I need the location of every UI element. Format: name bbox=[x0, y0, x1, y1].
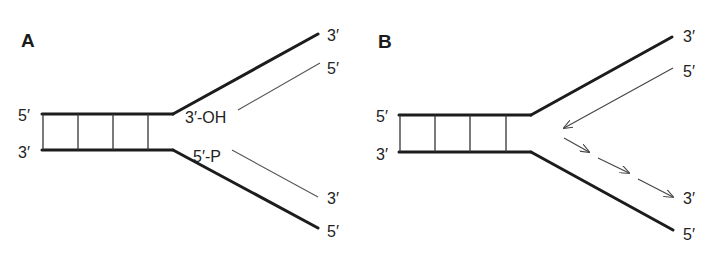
panel-a-upper-parental-end-label: 3′ bbox=[327, 27, 339, 44]
panel-b-lagging-strand-fragments bbox=[564, 138, 673, 197]
okazaki-fragment-arrow bbox=[598, 158, 629, 173]
okazaki-fragment-arrow bbox=[638, 179, 673, 197]
panel-a-label: A bbox=[21, 30, 35, 51]
panel-b-leading-strand-arrow bbox=[564, 68, 673, 128]
panel-a-lower-parental-end-label: 5′ bbox=[327, 223, 339, 240]
panel-b-left-top-label: 5′ bbox=[376, 108, 388, 125]
panel-b-upper-parental-strand bbox=[531, 37, 672, 115]
panel-b-upper-daughter-end-label: 5′ bbox=[683, 63, 695, 80]
panel-a-duplex bbox=[42, 114, 173, 150]
panel-b-label: B bbox=[378, 31, 392, 52]
panel-a-upper-daughter-end-label: 5′ bbox=[327, 60, 339, 77]
okazaki-fragment-arrow bbox=[564, 138, 589, 152]
panel-b: B 5′ 3′ 3′ 5′ 3′ 5′ bbox=[376, 28, 695, 243]
panel-a-3oh-label: 3′-OH bbox=[185, 109, 226, 126]
panel-b-duplex bbox=[399, 115, 531, 152]
panel-a: A 5′ 3′ 3′-OH 5′-P 3′ 5′ 3′ 5′ bbox=[18, 27, 339, 240]
panel-a-left-top-label: 5′ bbox=[18, 107, 30, 124]
panel-b-lower-parental-strand bbox=[531, 152, 673, 230]
panel-a-5p-label: 5′-P bbox=[193, 148, 221, 165]
panel-b-lower-parental-end-label: 5′ bbox=[683, 226, 695, 243]
panel-a-lower-daughter-end-label: 3′ bbox=[327, 190, 339, 207]
panel-a-left-bottom-label: 3′ bbox=[18, 144, 30, 161]
panel-a-upper-parental-strand bbox=[173, 34, 318, 114]
panel-b-upper-parental-end-label: 3′ bbox=[683, 28, 695, 45]
panel-b-lower-daughter-end-label: 3′ bbox=[683, 190, 695, 207]
panel-b-left-bottom-label: 3′ bbox=[376, 146, 388, 163]
replication-fork-diagram: A 5′ 3′ 3′-OH 5′-P 3′ 5′ 3′ 5′ B bbox=[0, 0, 711, 258]
